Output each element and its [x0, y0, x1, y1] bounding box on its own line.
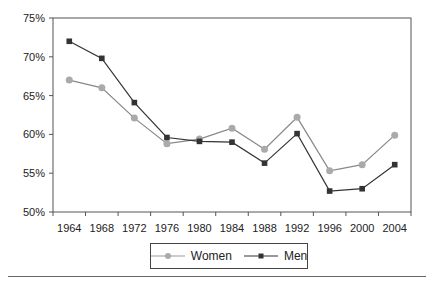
legend-item-women: Women: [151, 249, 232, 263]
data-point: [131, 115, 138, 122]
data-point: [132, 100, 138, 106]
bottom-divider: [8, 276, 426, 277]
series-women: [66, 77, 398, 175]
plot-area: [53, 18, 411, 212]
legend-label-men: Men: [284, 249, 307, 263]
y-tick-label: 50%: [23, 206, 45, 218]
y-tick-label: 60%: [23, 128, 45, 140]
legend: Women Men: [150, 243, 308, 269]
legend-item-men: Men: [244, 249, 307, 263]
data-point: [359, 186, 365, 192]
legend-label-women: Women: [191, 249, 232, 263]
data-point: [294, 114, 301, 121]
y-tick-label: 75%: [23, 12, 45, 24]
data-point: [66, 77, 73, 84]
data-point: [98, 84, 105, 91]
data-point: [327, 188, 333, 194]
x-tick-label: 1964: [57, 222, 81, 234]
x-tick-label: 1976: [155, 222, 179, 234]
data-point: [392, 162, 398, 168]
x-tick-label: 1984: [220, 222, 244, 234]
women-series-marker-icon: [151, 251, 185, 261]
data-point: [229, 139, 235, 145]
data-point: [261, 146, 268, 153]
x-tick-label: 1972: [122, 222, 146, 234]
data-point: [229, 125, 236, 132]
data-point: [359, 161, 366, 168]
data-point: [66, 38, 72, 44]
x-tick-label: 1992: [285, 222, 309, 234]
x-tick-label: 1968: [90, 222, 114, 234]
men-series-marker-icon: [244, 251, 278, 261]
y-tick-label: 70%: [23, 51, 45, 63]
data-point: [163, 140, 170, 147]
series-men: [66, 38, 397, 193]
x-tick-label: 1988: [252, 222, 276, 234]
data-point: [164, 135, 170, 141]
data-point: [99, 56, 105, 62]
x-tick-label: 1980: [187, 222, 211, 234]
data-point: [294, 131, 300, 137]
y-tick-label: 55%: [23, 167, 45, 179]
x-tick-label: 2004: [382, 222, 406, 234]
data-point: [262, 160, 268, 166]
x-tick-label: 2000: [350, 222, 374, 234]
data-point: [197, 139, 203, 145]
y-tick-label: 65%: [23, 90, 45, 102]
data-point: [326, 167, 333, 174]
x-tick-label: 1996: [317, 222, 341, 234]
data-point: [391, 132, 398, 139]
